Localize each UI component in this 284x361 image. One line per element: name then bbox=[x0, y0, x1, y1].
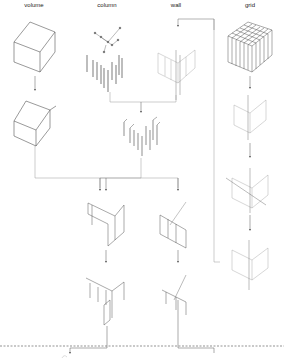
connector bbox=[100, 178, 178, 188]
connector bbox=[110, 92, 176, 102]
grid-frame-1-icon bbox=[234, 95, 266, 140]
combined-columns-icon bbox=[124, 117, 160, 156]
partial-figure bbox=[62, 356, 67, 358]
grid-frame-3-icon bbox=[232, 240, 268, 290]
connector bbox=[214, 19, 220, 262]
assembly-final-right-icon bbox=[162, 275, 186, 318]
volume-cube-icon bbox=[14, 22, 55, 72]
grid-cube-icon bbox=[228, 22, 272, 72]
assembly-final-left-icon bbox=[86, 278, 124, 325]
volume-cube-cut-icon bbox=[14, 101, 56, 146]
connector bbox=[178, 318, 214, 353]
connector bbox=[35, 146, 141, 178]
columns-icon bbox=[87, 55, 122, 92]
wall-assembly-right-icon bbox=[160, 202, 186, 248]
column-points-icon bbox=[94, 27, 121, 53]
process-diagram bbox=[0, 0, 284, 361]
connector bbox=[178, 19, 214, 30]
grid-frame-2-icon bbox=[226, 168, 268, 213]
wall-assembly-left-icon bbox=[88, 203, 124, 246]
wall-element-icon bbox=[158, 50, 195, 100]
